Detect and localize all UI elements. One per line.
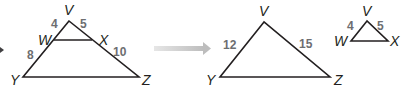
vertex-label-V: V xyxy=(64,2,75,18)
arrow-head-icon xyxy=(203,42,211,55)
length-VX: 5 xyxy=(80,17,87,31)
length-VZ: 15 xyxy=(299,37,313,51)
length-VY: 12 xyxy=(223,38,237,52)
middle-figure: V Y Z 12 15 xyxy=(206,3,343,88)
vertex-label-Z: Z xyxy=(141,72,151,88)
vertex-label-W: W xyxy=(334,33,349,49)
vertex-label-X: X xyxy=(389,33,400,49)
left-pointer-icon xyxy=(0,47,4,53)
vertex-label-Y: Y xyxy=(10,72,21,88)
vertex-label-W: W xyxy=(38,32,53,48)
length-VX: 5 xyxy=(377,19,384,33)
length-VW: 4 xyxy=(51,17,58,31)
vertex-label-V: V xyxy=(259,3,270,19)
left-figure: V W X Y Z 4 5 8 10 xyxy=(10,2,151,88)
triangle-VYZ xyxy=(220,22,330,77)
right-figure: V W X 4 5 xyxy=(334,3,400,49)
vertex-label-V: V xyxy=(362,3,373,19)
length-XZ: 10 xyxy=(113,45,127,59)
vertex-label-X: X xyxy=(98,32,109,48)
similar-triangles-diagram: V W X Y Z 4 5 8 10 V Y Z 12 15 V W X 4 5 xyxy=(0,0,410,90)
arrow-shaft xyxy=(154,46,204,51)
length-WY: 8 xyxy=(27,48,34,62)
transform-arrow xyxy=(154,42,211,55)
vertex-label-Y: Y xyxy=(206,72,217,88)
length-VW: 4 xyxy=(347,19,354,33)
vertex-label-Z: Z xyxy=(333,72,343,88)
